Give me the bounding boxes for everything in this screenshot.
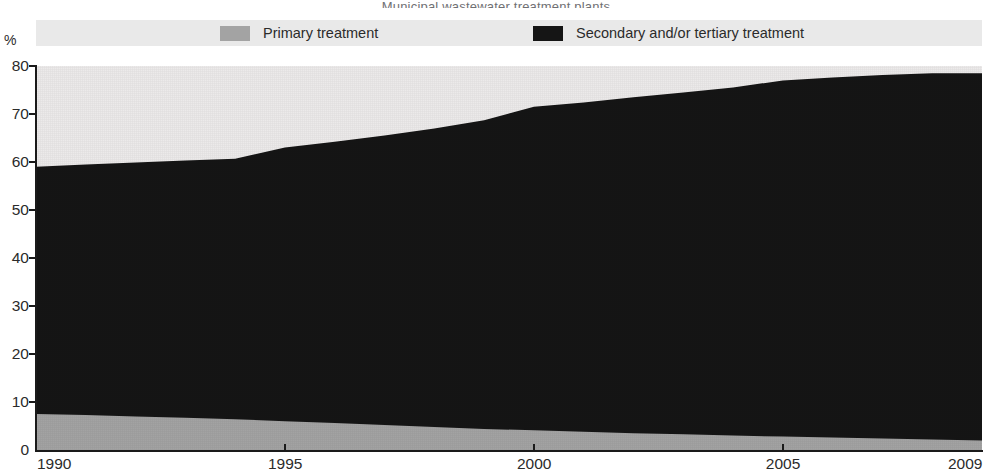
- plot-area: [36, 66, 982, 450]
- y-tick-mark: [29, 305, 37, 307]
- y-tick-label: 40: [12, 249, 29, 267]
- x-tick-mark: [284, 444, 286, 452]
- x-tick-mark: [782, 444, 784, 452]
- y-tick-mark: [29, 401, 37, 403]
- legend-item-secondary-treatment[interactable]: Secondary and/or tertiary treatment: [533, 25, 804, 41]
- x-tick-label: 2000: [517, 455, 551, 473]
- y-tick-label: 80: [12, 57, 29, 75]
- gray-swatch-icon: [220, 26, 250, 41]
- y-tick-label: 10: [12, 393, 29, 411]
- y-tick-label: 20: [12, 345, 29, 363]
- y-tick-mark: [29, 209, 37, 211]
- x-axis: 19901995200020052009: [0, 452, 992, 473]
- black-swatch-icon: [533, 26, 563, 41]
- x-tick-label: 2009: [948, 455, 982, 473]
- x-tick-label: 1995: [268, 455, 302, 473]
- legend-label-primary: Primary treatment: [263, 25, 378, 41]
- chart-figure: Municipal wastewater treatment plants Pr…: [0, 0, 992, 473]
- y-tick-mark: [29, 257, 37, 259]
- y-tick-mark: [29, 113, 37, 115]
- chart-title-cropped: Municipal wastewater treatment plants: [0, 0, 992, 8]
- y-tick-mark: [29, 65, 37, 67]
- chart-legend: Primary treatment Secondary and/or terti…: [36, 20, 982, 46]
- y-tick-mark: [29, 161, 37, 163]
- y-tick-label: 50: [12, 201, 29, 219]
- legend-label-secondary: Secondary and/or tertiary treatment: [576, 25, 804, 41]
- x-tick-mark: [533, 444, 535, 452]
- y-tick-label: 70: [12, 105, 29, 123]
- x-tick-label: 2005: [766, 455, 800, 473]
- y-tick-label: 30: [12, 297, 29, 315]
- y-tick-label: 60: [12, 153, 29, 171]
- stacked-area-svg: [36, 66, 982, 450]
- y-tick-mark: [29, 353, 37, 355]
- x-tick-label: 1990: [37, 455, 71, 473]
- legend-item-primary-treatment[interactable]: Primary treatment: [220, 25, 378, 41]
